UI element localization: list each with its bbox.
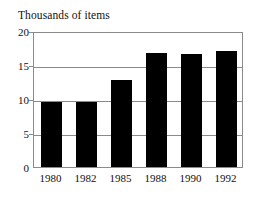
bar-1985 xyxy=(111,80,133,167)
x-axis: 198019821985198819901992 xyxy=(33,172,243,188)
x-tick-label-1985: 1985 xyxy=(103,172,138,184)
y-tick-label: 15 xyxy=(18,60,29,72)
bar-1980 xyxy=(41,102,63,167)
y-axis: 05101520 xyxy=(10,32,29,168)
x-tick-label-1992: 1992 xyxy=(208,172,243,184)
y-tick-label: 10 xyxy=(18,94,29,106)
bar-1992 xyxy=(216,51,238,167)
x-tick-label-1980: 1980 xyxy=(33,172,68,184)
bar-1988 xyxy=(146,53,168,167)
x-tick-label-1990: 1990 xyxy=(173,172,208,184)
plot-area xyxy=(33,32,243,168)
y-tick-label: 20 xyxy=(18,26,29,38)
bar-series xyxy=(34,33,242,167)
chart-title: Thousands of items xyxy=(18,9,110,21)
chart-page: Thousands of items 05101520 198019821985… xyxy=(0,0,253,200)
bar-1982 xyxy=(76,102,98,167)
y-tick-label: 0 xyxy=(24,162,30,174)
x-tick-label-1982: 1982 xyxy=(68,172,103,184)
bar-1990 xyxy=(181,54,203,167)
x-tick-label-1988: 1988 xyxy=(138,172,173,184)
